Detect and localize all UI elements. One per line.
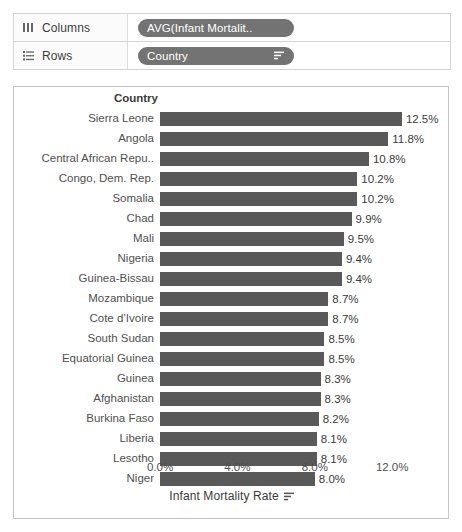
bar-row[interactable]: Afghanistan8.3% — [14, 389, 449, 409]
x-axis-tick-label: 8.0% — [302, 461, 328, 473]
bar-value-label: 8.5% — [328, 332, 354, 346]
bar-value-label: 9.5% — [348, 232, 374, 246]
bar-row[interactable]: Nigeria9.4% — [14, 249, 449, 269]
bar-mark[interactable] — [160, 392, 321, 406]
pill-country[interactable]: Country — [138, 47, 294, 65]
bar-mark[interactable] — [160, 232, 344, 246]
category-label[interactable]: Sierra Leone — [14, 112, 154, 124]
bar-row[interactable]: Guinea8.3% — [14, 369, 449, 389]
bar-value-label: 9.4% — [346, 272, 372, 286]
bar-value-label: 8.5% — [328, 352, 354, 366]
x-axis-title[interactable]: Infant Mortality Rate — [14, 489, 449, 503]
category-label[interactable]: Equatorial Guinea — [14, 352, 154, 364]
bar-value-label: 9.9% — [356, 212, 382, 226]
category-label[interactable]: Guinea — [14, 372, 154, 384]
columns-label-text: Columns — [42, 21, 90, 35]
bar-row[interactable]: Liberia8.1% — [14, 429, 449, 449]
row-header-title: Country — [14, 92, 158, 104]
bar-mark[interactable] — [160, 412, 319, 426]
pill-avg-infant-mortality-text: AVG(Infant Mortalit.. — [147, 22, 252, 34]
columns-shelf-label: Columns — [14, 14, 128, 41]
bar-row[interactable]: Congo, Dem. Rep.10.2% — [14, 169, 449, 189]
sort-descending-icon[interactable] — [284, 492, 295, 501]
bar-value-label: 10.2% — [361, 192, 394, 206]
bar-mark[interactable] — [160, 212, 352, 226]
category-label[interactable]: Nigeria — [14, 252, 154, 264]
rows-icon — [22, 50, 35, 61]
bar-mark[interactable] — [160, 352, 324, 366]
bar-mark[interactable] — [160, 372, 321, 386]
category-label[interactable]: Burkina Faso — [14, 412, 154, 424]
bar-mark[interactable] — [160, 332, 324, 346]
category-label[interactable]: Chad — [14, 212, 154, 224]
category-label[interactable]: Congo, Dem. Rep. — [14, 172, 154, 184]
rows-shelf[interactable]: Rows Country — [14, 42, 450, 70]
rows-shelf-dropzone[interactable]: Country — [128, 42, 450, 69]
x-axis-tick-label: 12.0% — [376, 461, 409, 473]
category-label[interactable]: Angola — [14, 132, 154, 144]
bar-mark[interactable] — [160, 152, 369, 166]
bar-mark[interactable] — [160, 192, 357, 206]
pill-avg-infant-mortality[interactable]: AVG(Infant Mortalit.. — [138, 19, 294, 37]
bar-mark[interactable] — [160, 112, 402, 126]
bar-value-label: 10.2% — [361, 172, 394, 186]
bar-value-label: 8.1% — [321, 432, 347, 446]
bar-value-label: 8.3% — [325, 392, 351, 406]
rows-label-text: Rows — [42, 49, 72, 63]
bar-mark[interactable] — [160, 292, 328, 306]
bar-chart-plot: Sierra Leone12.5%Angola11.8%Central Afri… — [14, 109, 449, 459]
bar-row[interactable]: Somalia10.2% — [14, 189, 449, 209]
bar-row[interactable]: Angola11.8% — [14, 129, 449, 149]
bar-value-label: 10.8% — [373, 152, 406, 166]
category-label[interactable]: South Sudan — [14, 332, 154, 344]
bar-value-label: 8.7% — [332, 292, 358, 306]
bar-row[interactable]: Equatorial Guinea8.5% — [14, 349, 449, 369]
bar-mark[interactable] — [160, 172, 357, 186]
category-label[interactable]: Cote d’Ivoire — [14, 312, 154, 324]
bar-row[interactable]: Cote d’Ivoire8.7% — [14, 309, 449, 329]
x-axis-tick-label: 0.0% — [147, 461, 173, 473]
bar-value-label: 8.3% — [325, 372, 351, 386]
sort-descending-icon[interactable] — [274, 51, 285, 60]
category-label[interactable]: Somalia — [14, 192, 154, 204]
bar-value-label: 12.5% — [406, 112, 439, 126]
bar-row[interactable]: Chad9.9% — [14, 209, 449, 229]
bar-row[interactable]: Central African Repu..10.8% — [14, 149, 449, 169]
columns-icon — [22, 22, 35, 33]
bar-value-label: 8.2% — [323, 412, 349, 426]
category-label[interactable]: Guinea-Bissau — [14, 272, 154, 284]
category-label[interactable]: Central African Repu.. — [14, 152, 154, 164]
bar-row[interactable]: Mozambique8.7% — [14, 289, 449, 309]
bar-row[interactable]: Guinea-Bissau9.4% — [14, 269, 449, 289]
bar-row[interactable]: Burkina Faso8.2% — [14, 409, 449, 429]
pill-country-text: Country — [147, 50, 188, 62]
shelf-panel: Columns AVG(Infant Mortalit.. Rows Count… — [13, 13, 451, 70]
bar-mark[interactable] — [160, 252, 342, 266]
category-label[interactable]: Mozambique — [14, 292, 154, 304]
category-label[interactable]: Mali — [14, 232, 154, 244]
bar-row[interactable]: Mali9.5% — [14, 229, 449, 249]
columns-shelf-dropzone[interactable]: AVG(Infant Mortalit.. — [128, 14, 450, 41]
columns-shelf[interactable]: Columns AVG(Infant Mortalit.. — [14, 14, 450, 42]
x-axis-title-text: Infant Mortality Rate — [169, 489, 278, 503]
category-label[interactable]: Liberia — [14, 432, 154, 444]
x-axis-tick-label: 4.0% — [224, 461, 250, 473]
visualization-pane: Country Sierra Leone12.5%Angola11.8%Cent… — [13, 86, 449, 519]
bar-mark[interactable] — [160, 312, 328, 326]
x-axis: 0.0%4.0%8.0%12.0% — [14, 461, 449, 479]
bar-mark[interactable] — [160, 132, 388, 146]
bar-value-label: 11.8% — [392, 132, 424, 146]
rows-shelf-label: Rows — [14, 42, 128, 69]
bar-mark[interactable] — [160, 272, 342, 286]
category-label[interactable]: Afghanistan — [14, 392, 154, 404]
bar-value-label: 9.4% — [346, 252, 372, 266]
bar-value-label: 8.7% — [332, 312, 358, 326]
bar-row[interactable]: Sierra Leone12.5% — [14, 109, 449, 129]
bar-mark[interactable] — [160, 432, 317, 446]
bar-row[interactable]: South Sudan8.5% — [14, 329, 449, 349]
